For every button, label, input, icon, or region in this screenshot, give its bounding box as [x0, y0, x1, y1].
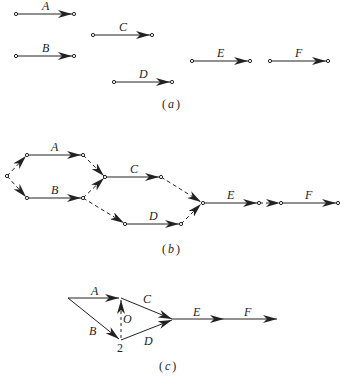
- label-b: B: [42, 41, 50, 55]
- label-b: B: [51, 183, 59, 197]
- caption-b: (b): [162, 242, 180, 256]
- label-a: A: [90, 284, 99, 298]
- label-c: C: [143, 292, 152, 306]
- label-c: C: [130, 162, 139, 176]
- node-label-2: 2: [117, 341, 123, 355]
- label-f: F: [243, 305, 252, 319]
- label-e: E: [192, 305, 201, 319]
- label-e: E: [216, 46, 225, 60]
- caption-a: (a): [162, 97, 180, 111]
- label-dummy-o: O: [123, 312, 132, 326]
- label-f: F: [304, 188, 313, 202]
- label-f: F: [294, 46, 303, 60]
- dummy-connectors: [7, 155, 280, 224]
- label-e: E: [226, 188, 235, 202]
- panel-a: [14, 12, 329, 83]
- label-c: C: [119, 20, 128, 34]
- label-a: A: [50, 140, 59, 154]
- label-d: D: [138, 67, 148, 81]
- label-a: A: [41, 0, 50, 13]
- label-d: D: [148, 209, 158, 223]
- caption-c: (c): [159, 359, 176, 373]
- network-diagram: A B C D E F (a): [0, 0, 346, 377]
- label-b: B: [89, 324, 97, 338]
- label-d: D: [143, 334, 153, 348]
